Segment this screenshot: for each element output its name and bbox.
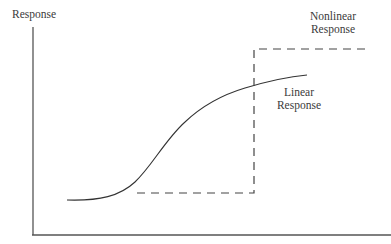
linear-response-label: Linear Response (270, 86, 328, 112)
linear-label-line2: Response (270, 99, 328, 112)
nonlinear-label-line1: Nonlinear (302, 10, 364, 23)
y-axis-label-text: Response (12, 8, 56, 20)
nonlinear-response-step (137, 49, 368, 193)
linear-label-line1: Linear (270, 86, 328, 99)
y-axis-label: Response (12, 8, 56, 21)
response-diagram (0, 0, 391, 244)
nonlinear-label-line2: Response (302, 23, 364, 36)
nonlinear-response-label: Nonlinear Response (302, 10, 364, 36)
